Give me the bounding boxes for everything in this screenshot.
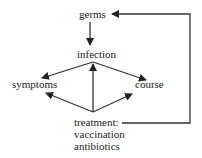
edge-treatment-course [93,94,132,112]
diagram-canvas: germs infection symptoms course treatmen… [0,0,202,158]
treatment-item-vaccination: vaccination [74,128,125,140]
node-germs: germs [79,8,106,20]
edge-treatment-symptoms [46,93,93,112]
edge-infection-symptoms [42,62,93,78]
node-course: course [135,78,164,90]
node-treatment: treatment: [74,116,119,128]
treatment-item-antibiotics: antibiotics [74,140,120,152]
edge-treatment-germs [112,14,190,123]
node-symptoms: symptoms [12,78,57,90]
node-infection: infection [77,48,116,60]
